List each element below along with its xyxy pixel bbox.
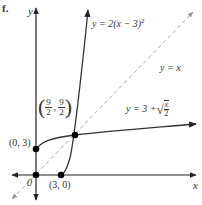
- parabola-equation: y = 2(x − 3)2: [92, 18, 145, 29]
- identity-equation: y = x: [160, 63, 181, 73]
- origin-label: 0: [27, 178, 32, 188]
- point-3-0-label: (3, 0): [49, 180, 71, 190]
- parabola-curve: [61, 10, 88, 175]
- intersection-label: ( 9 2 , 9 2 ): [38, 96, 72, 118]
- point-origin: [33, 172, 40, 179]
- sqrt-equation: y = 3 + √ x 2: [126, 100, 169, 118]
- x-axis-label: x: [193, 180, 198, 191]
- figure-label: f.: [2, 3, 8, 14]
- graph-canvas: [0, 0, 202, 205]
- point-intersection: [72, 132, 79, 139]
- point-0-3-label: (0, 3): [9, 138, 31, 148]
- y-axis-label: y: [28, 6, 33, 17]
- sqrt-icon: √: [156, 103, 163, 116]
- point-0-3: [33, 146, 40, 153]
- sqrt-curve: [36, 124, 196, 150]
- point-3-0: [58, 172, 65, 179]
